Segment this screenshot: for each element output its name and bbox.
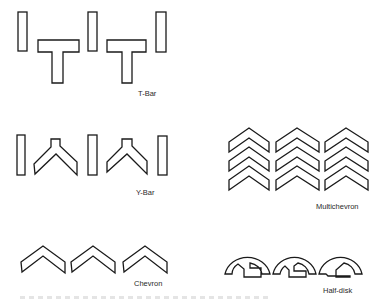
bar-shape bbox=[88, 12, 97, 51]
half-disk-group bbox=[225, 257, 362, 277]
chevron-shape bbox=[229, 166, 269, 190]
bar-shape bbox=[158, 136, 167, 175]
bar-shape bbox=[17, 135, 25, 175]
chevron-shape bbox=[71, 246, 115, 273]
y-bar-shape bbox=[34, 139, 77, 175]
t-bar-label: T-Bar bbox=[138, 90, 156, 98]
bar-shape bbox=[18, 12, 27, 51]
half-disk-shape bbox=[273, 257, 316, 277]
bar-shape bbox=[88, 135, 97, 175]
t-bar-group bbox=[18, 12, 166, 83]
y-bar-group bbox=[17, 135, 167, 175]
y-bar-label: Y-Bar bbox=[136, 189, 154, 197]
chevron-shape bbox=[21, 246, 65, 273]
t-bar-shape bbox=[107, 40, 146, 83]
multichevron-label: Multichevron bbox=[316, 203, 359, 211]
bar-shape bbox=[156, 12, 166, 52]
half-disk-shape bbox=[319, 257, 362, 277]
chevron-shape bbox=[276, 166, 319, 190]
multichevron-group bbox=[229, 128, 368, 190]
half-disk-label: Half-disk bbox=[323, 287, 352, 295]
chevron-shape bbox=[325, 166, 368, 190]
chevron-label: Chevron bbox=[134, 280, 162, 288]
chevron-shape bbox=[123, 246, 167, 273]
pattern-diagram bbox=[0, 0, 379, 299]
half-disk-shape bbox=[225, 257, 270, 277]
chevron-group bbox=[21, 246, 167, 273]
t-bar-shape bbox=[38, 40, 79, 83]
y-bar-shape bbox=[107, 139, 147, 174]
